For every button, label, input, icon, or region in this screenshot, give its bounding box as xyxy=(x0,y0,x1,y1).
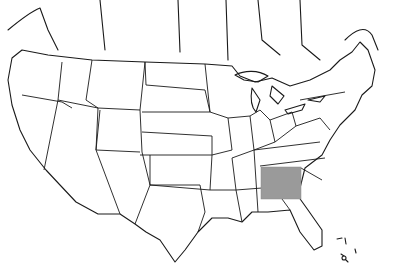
state-borders xyxy=(22,60,345,232)
islands xyxy=(337,238,356,262)
us-outline-map xyxy=(0,0,395,276)
highlighted-state-georgia[interactable] xyxy=(261,167,301,199)
canada-lines xyxy=(8,0,378,60)
us-border xyxy=(8,42,375,262)
great-lakes xyxy=(235,71,325,114)
